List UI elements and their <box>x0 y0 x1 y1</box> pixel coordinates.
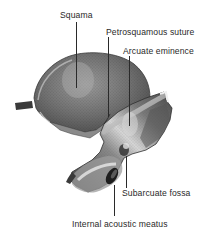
label-petrosquamous-suture: Petrosquamous suture <box>106 27 194 37</box>
leader-line-subarcuate-fossa <box>126 156 127 188</box>
leader-line-arcuate-eminence <box>129 56 130 126</box>
zygomatic-process <box>15 101 33 110</box>
label-squama: Squama <box>60 10 93 20</box>
anatomical-figure: Squama Petrosquamous suture Arcuate emin… <box>0 0 207 234</box>
leader-line-petrosquamous-suture <box>108 37 109 117</box>
label-arcuate-eminence: Arcuate eminence <box>123 46 194 56</box>
leader-line-internal-acoustic-meatus <box>114 185 115 216</box>
label-subarcuate-fossa: Subarcuate fossa <box>122 188 190 198</box>
leader-line-squama <box>76 22 77 88</box>
label-internal-acoustic-meatus: Internal acoustic meatus <box>72 219 168 229</box>
